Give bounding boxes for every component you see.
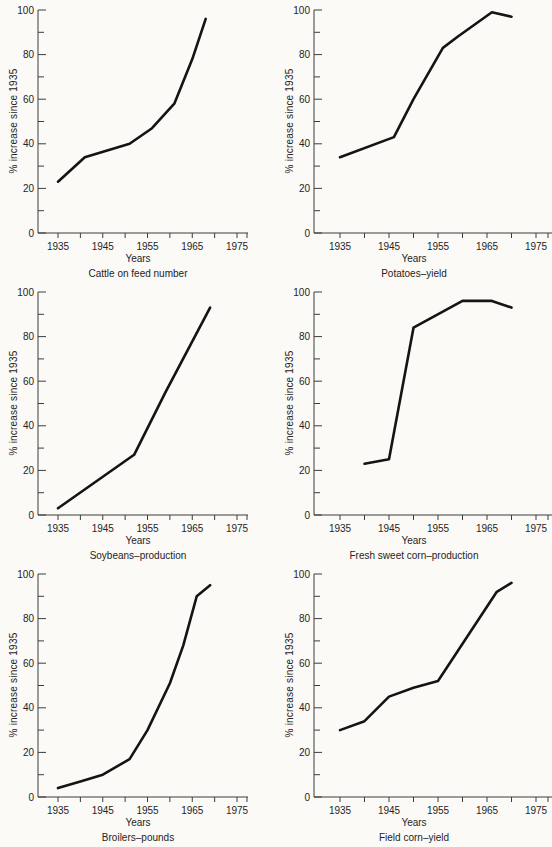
- plot-cattle-on-feed-number: 02040608010019351945195519651975: [0, 0, 276, 252]
- chart-caption: Years Potatoes–yield: [276, 253, 552, 280]
- y-tick-labels: 020406080100: [17, 287, 34, 521]
- x-tick-label: 1975: [226, 523, 249, 534]
- x-ticks: [340, 233, 548, 238]
- chart-cattle-on-feed-number: % increase since 1935 020406080100193519…: [0, 0, 276, 282]
- plot-broilers-pounds: 02040608010019351945195519651975: [0, 564, 276, 816]
- y-tick-label: 60: [299, 658, 311, 669]
- chart-title: Potatoes–yield: [276, 267, 552, 280]
- plot-soybeans-production: 02040608010019351945195519651975: [0, 282, 276, 534]
- data-line: [340, 583, 512, 730]
- y-axis-title: % increase since 1935: [284, 69, 295, 174]
- y-tick-label: 100: [17, 569, 34, 580]
- y-ticks: [38, 292, 46, 515]
- x-ticks: [58, 797, 247, 802]
- y-tick-label: 60: [23, 376, 35, 387]
- y-tick-labels: 020406080100: [293, 287, 310, 521]
- x-tick-label: 1935: [329, 523, 352, 534]
- x-tick-label: 1935: [329, 241, 352, 252]
- axes: [314, 292, 552, 515]
- x-tick-labels: 19351945195519651975: [47, 241, 249, 252]
- y-tick-label: 80: [299, 613, 311, 624]
- y-axis-title: % increase since 1935: [8, 351, 19, 456]
- chart-title: Soybeans–production: [0, 549, 276, 562]
- x-tick-label: 1955: [136, 523, 159, 534]
- chart-caption: Years Fresh sweet corn–production: [276, 535, 552, 562]
- chart-broilers-pounds: % increase since 1935 020406080100193519…: [0, 564, 276, 846]
- x-ticks: [340, 797, 548, 802]
- data-line: [58, 308, 210, 509]
- x-tick-label: 1965: [476, 523, 499, 534]
- y-tick-label: 80: [23, 331, 35, 342]
- y-tick-label: 80: [299, 331, 311, 342]
- y-tick-label: 100: [293, 5, 310, 16]
- x-tick-label: 1975: [525, 523, 548, 534]
- x-tick-labels: 19351945195519651975: [329, 241, 548, 252]
- x-ticks: [58, 233, 247, 238]
- y-tick-label: 60: [299, 94, 311, 105]
- y-tick-label: 60: [23, 658, 35, 669]
- y-ticks: [314, 574, 322, 797]
- chart-title: Cattle on feed number: [0, 267, 276, 280]
- y-tick-label: 100: [293, 287, 310, 298]
- y-tick-label: 20: [23, 465, 35, 476]
- x-tick-label: 1945: [92, 241, 115, 252]
- x-tick-label: 1955: [136, 805, 159, 816]
- x-ticks: [58, 515, 247, 520]
- y-tick-label: 100: [17, 287, 34, 298]
- data-line: [340, 12, 512, 157]
- y-tick-labels: 020406080100: [293, 569, 310, 803]
- chart-field-corn-yield: % increase since 1935 020406080100193519…: [276, 564, 552, 846]
- y-tick-label: 80: [23, 613, 35, 624]
- x-tick-label: 1945: [92, 805, 115, 816]
- y-axis-title: % increase since 1935: [8, 69, 19, 174]
- x-tick-labels: 19351945195519651975: [47, 805, 249, 816]
- data-line: [58, 585, 210, 788]
- chart-caption: Years Broilers–pounds: [0, 817, 276, 844]
- y-tick-label: 20: [299, 747, 311, 758]
- x-tick-label: 1945: [378, 523, 401, 534]
- y-tick-label: 60: [299, 376, 311, 387]
- x-axis-title: Years: [0, 817, 276, 829]
- y-tick-label: 20: [23, 183, 35, 194]
- y-tick-label: 100: [293, 569, 310, 580]
- x-tick-label: 1935: [47, 241, 70, 252]
- y-tick-label: 0: [304, 510, 310, 521]
- y-tick-label: 20: [299, 465, 311, 476]
- x-tick-labels: 19351945195519651975: [329, 805, 548, 816]
- x-axis-title: Years: [276, 253, 552, 265]
- y-ticks: [38, 574, 46, 797]
- plot-fresh-sweet-corn-production: 02040608010019351945195519651975: [276, 282, 552, 534]
- y-tick-labels: 020406080100: [293, 5, 310, 239]
- x-tick-label: 1935: [47, 523, 70, 534]
- x-axis-title: Years: [0, 253, 276, 265]
- chart-soybeans-production: % increase since 1935 020406080100193519…: [0, 282, 276, 564]
- x-tick-label: 1975: [226, 241, 249, 252]
- y-tick-label: 100: [17, 5, 34, 16]
- y-tick-label: 40: [23, 138, 35, 149]
- data-line: [365, 301, 512, 464]
- axes: [38, 574, 248, 797]
- y-tick-label: 20: [299, 183, 311, 194]
- data-line: [58, 19, 206, 182]
- chart-title: Field corn–yield: [276, 831, 552, 844]
- y-tick-label: 0: [304, 792, 310, 803]
- x-tick-label: 1945: [92, 523, 115, 534]
- x-tick-label: 1965: [181, 805, 204, 816]
- y-tick-label: 0: [28, 792, 34, 803]
- y-tick-labels: 020406080100: [17, 569, 34, 803]
- y-tick-label: 80: [299, 49, 311, 60]
- x-tick-label: 1935: [329, 805, 352, 816]
- y-tick-label: 40: [23, 420, 35, 431]
- x-tick-label: 1975: [525, 805, 548, 816]
- axes: [38, 292, 248, 515]
- chart-title: Broilers–pounds: [0, 831, 276, 844]
- y-tick-label: 40: [299, 702, 311, 713]
- y-tick-label: 0: [304, 228, 310, 239]
- chart-potatoes-yield: % increase since 1935 020406080100193519…: [276, 0, 552, 282]
- x-tick-label: 1965: [476, 805, 499, 816]
- plot-field-corn-yield: 02040608010019351945195519651975: [276, 564, 552, 816]
- x-axis-title: Years: [276, 817, 552, 829]
- x-tick-label: 1945: [378, 805, 401, 816]
- x-tick-label: 1955: [427, 805, 450, 816]
- y-tick-label: 20: [23, 747, 35, 758]
